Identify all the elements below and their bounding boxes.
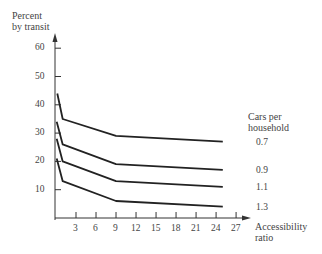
x-tick-label: 15 — [151, 223, 161, 233]
x-tick-label: 24 — [211, 223, 221, 233]
series-label-1.1: 1.1 — [256, 182, 268, 192]
x-axis-arrow-icon — [242, 216, 251, 221]
series-line-0.9 — [57, 122, 223, 170]
x-tick-label: 21 — [191, 223, 201, 233]
x-tick-label: 9 — [113, 223, 118, 233]
series-label-0.9: 0.9 — [256, 165, 268, 175]
y-tick-label: 30 — [35, 127, 45, 137]
legend-title-line1: Cars per — [248, 111, 289, 122]
series-line-0.7 — [57, 94, 223, 142]
y-tick-label: 20 — [35, 155, 45, 165]
x-axis-label-line1: Accessibility — [255, 221, 307, 232]
x-tick-label: 18 — [171, 223, 181, 233]
x-tick-label: 12 — [131, 223, 141, 233]
y-axis-arrow-icon — [53, 33, 58, 42]
legend-title: Cars per household — [248, 111, 289, 133]
x-tick-label: 3 — [73, 223, 78, 233]
series-label-1.3: 1.3 — [256, 202, 268, 212]
y-tick-label: 50 — [35, 71, 45, 81]
y-tick-label: 10 — [35, 184, 45, 194]
legend-title-line2: household — [248, 122, 289, 133]
y-tick-label: 60 — [35, 42, 45, 52]
y-axis-label-line1: Percent — [12, 10, 50, 21]
y-axis-label: Percent by transit — [12, 10, 50, 32]
x-tick-label: 27 — [231, 223, 241, 233]
x-axis-label-line2: ratio — [255, 232, 307, 243]
series-label-0.7: 0.7 — [256, 137, 268, 147]
x-axis-label: Accessibility ratio — [255, 221, 307, 243]
y-axis-label-line2: by transit — [12, 21, 50, 32]
x-tick-label: 6 — [93, 223, 98, 233]
y-tick-label: 40 — [35, 99, 45, 109]
series-line-1.1 — [57, 139, 223, 187]
